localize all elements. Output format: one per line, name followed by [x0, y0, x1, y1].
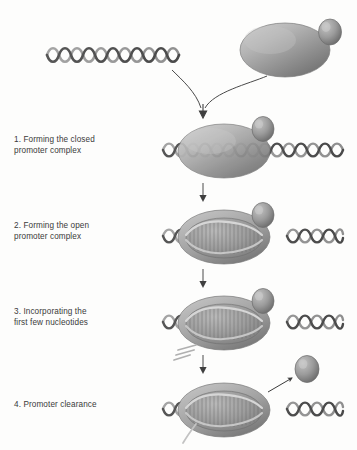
arrow-step2-to-step3: [199, 269, 206, 288]
arrow-step1-to-step2: [199, 183, 206, 202]
transcription-initiation-figure: 1. Forming the closed promoter complex 2…: [0, 0, 357, 450]
nascent-rna-transcript: [174, 345, 196, 360]
step-3-initial-transcription-graphic: [163, 289, 343, 361]
step-4-promoter-clearance-graphic: [163, 356, 343, 444]
step-2-open-complex-graphic: [163, 203, 343, 265]
step-1-closed-complex-graphic: [163, 117, 343, 179]
sigma-release-arrow: [268, 378, 292, 392]
step-label-1: 1. Forming the closed promoter complex: [14, 135, 140, 156]
step-label-3: 3. Incorporating the first few nucleotid…: [14, 307, 140, 328]
free-dna-duplex: [47, 48, 179, 62]
converging-arrows: [172, 70, 267, 118]
sigma-factor-released: [295, 356, 319, 383]
sigma-factor-top: [319, 19, 342, 45]
arrow-step3-to-step4: [199, 355, 206, 374]
step-label-4: 4. Promoter clearance: [14, 400, 154, 411]
rna-polymerase-holoenzyme: [240, 23, 330, 77]
step-label-2: 2. Forming the open promoter complex: [14, 221, 140, 242]
